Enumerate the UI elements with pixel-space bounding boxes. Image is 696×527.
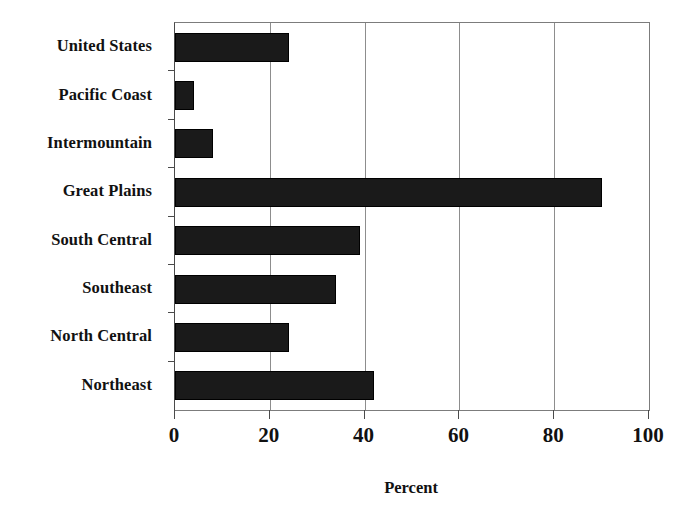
category-label: Southeast	[82, 278, 152, 298]
x-axis-tick-label: 80	[518, 423, 588, 448]
y-axis-tick	[168, 216, 175, 217]
x-axis-tick-label: 100	[613, 423, 683, 448]
gridline	[459, 23, 460, 410]
bar	[175, 33, 289, 62]
bar	[175, 81, 194, 110]
y-axis-tick	[168, 119, 175, 120]
y-axis-tick	[168, 70, 175, 71]
plot-area	[174, 22, 650, 411]
y-axis-tick	[168, 361, 175, 362]
x-axis-tick	[648, 410, 649, 419]
y-axis-tick	[168, 264, 175, 265]
x-axis-tick	[553, 410, 554, 419]
bar	[175, 226, 360, 255]
category-label: North Central	[50, 326, 152, 346]
x-axis-tick-label: 40	[329, 423, 399, 448]
category-label: Northeast	[81, 375, 152, 395]
gridline	[270, 23, 271, 410]
x-axis-tick	[458, 410, 459, 419]
category-label: Intermountain	[47, 133, 152, 153]
bar	[175, 129, 213, 158]
category-label: Great Plains	[63, 181, 152, 201]
bar	[175, 275, 336, 304]
x-axis-tick	[364, 410, 365, 419]
gridline	[365, 23, 366, 410]
x-axis-tick	[269, 410, 270, 419]
bar	[175, 178, 602, 207]
y-axis-tick	[168, 167, 175, 168]
x-axis-tick-label: 0	[139, 423, 209, 448]
bar-chart-screenshot: United StatesPacific CoastIntermountainG…	[0, 0, 696, 527]
x-axis-tick	[174, 410, 175, 419]
x-axis-title: Percent	[174, 478, 648, 498]
bar	[175, 371, 374, 400]
category-axis: United StatesPacific CoastIntermountainG…	[0, 22, 166, 409]
bar	[175, 323, 289, 352]
x-axis-tick-label: 20	[234, 423, 304, 448]
category-label: United States	[57, 36, 152, 56]
category-label: Pacific Coast	[59, 85, 152, 105]
category-label: South Central	[51, 230, 152, 250]
x-axis-tick-label: 60	[423, 423, 493, 448]
y-axis-tick	[168, 312, 175, 313]
gridline	[554, 23, 555, 410]
